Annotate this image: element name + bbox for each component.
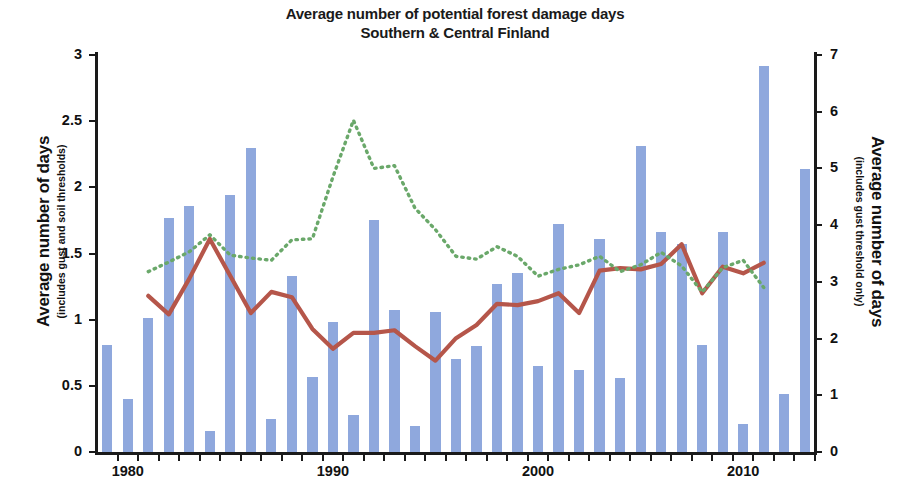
x-axis-line — [95, 452, 817, 455]
x-axis-tick — [486, 454, 488, 461]
y-axis-left-tick-label: 1 — [22, 311, 82, 327]
x-axis-tick — [670, 454, 672, 461]
x-axis-tick — [568, 454, 570, 461]
x-axis-tick — [732, 454, 734, 461]
y-axis-right-tick — [815, 54, 822, 56]
x-axis-tick — [363, 454, 365, 461]
chart-title: Average number of potential forest damag… — [0, 4, 910, 42]
y-axis-left-tick — [89, 120, 96, 122]
x-axis-tick — [793, 454, 795, 461]
y-axis-right-tick-label: 7 — [830, 46, 890, 62]
x-axis-tick — [609, 454, 611, 461]
y-axis-left-tick — [89, 186, 96, 188]
y-axis-right-tick-label: 0 — [830, 443, 890, 459]
y-axis-right-tick — [815, 394, 822, 396]
x-axis-tick — [342, 454, 344, 461]
chart-figure: Average number of potential forest damag… — [0, 0, 910, 482]
x-axis-tick — [137, 454, 139, 461]
y-axis-left-tick — [89, 54, 96, 56]
x-axis-tick — [465, 454, 467, 461]
x-axis-tick — [158, 454, 160, 461]
y-axis-right-tick-label: 3 — [830, 273, 890, 289]
x-axis-tick — [219, 454, 221, 461]
x-axis-tick — [629, 454, 631, 461]
x-axis-tick — [199, 454, 201, 461]
y-axis-right-tick — [815, 451, 822, 453]
y-axis-right-tick-label: 6 — [830, 103, 890, 119]
x-axis-tick — [711, 454, 713, 461]
x-axis-tick — [588, 454, 590, 461]
x-axis-tick — [383, 454, 385, 461]
y-axis-left-tick — [89, 253, 96, 255]
x-axis-tick — [650, 454, 652, 461]
y-axis-right-tick-label: 2 — [830, 330, 890, 346]
x-axis-tick — [404, 454, 406, 461]
x-axis-tick — [322, 454, 324, 461]
y-axis-right-tick — [815, 338, 822, 340]
x-axis-tick — [240, 454, 242, 461]
x-axis-tick — [527, 454, 529, 461]
y-axis-right-tick-label: 4 — [830, 216, 890, 232]
x-axis-tick-label: 1980 — [88, 463, 168, 479]
x-axis-tick — [445, 454, 447, 461]
x-axis-tick — [424, 454, 426, 461]
y-axis-right-tick — [815, 167, 822, 169]
x-axis-tick — [260, 454, 262, 461]
x-axis-tick — [773, 454, 775, 461]
x-axis-tick — [547, 454, 549, 461]
x-axis-tick — [814, 454, 816, 461]
y-axis-left-tick-label: 1.5 — [22, 245, 82, 261]
x-axis-tick — [281, 454, 283, 461]
y-axis-right-tick — [815, 224, 822, 226]
x-axis-tick — [691, 454, 693, 461]
chart-title-line2: Southern & Central Finland — [0, 23, 910, 42]
y-axis-left-tick-label: 2 — [22, 178, 82, 194]
x-axis-tick — [178, 454, 180, 461]
line-series-overlay — [97, 55, 815, 452]
y-axis-left-tick-label: 2.5 — [22, 112, 82, 128]
line-gust-only-running-mean — [148, 120, 763, 292]
y-axis-left-tick-label: 3 — [22, 46, 82, 62]
x-axis-tick — [117, 454, 119, 461]
x-axis-tick — [301, 454, 303, 461]
x-axis-tick-label: 2000 — [498, 463, 578, 479]
x-axis-tick — [752, 454, 754, 461]
x-axis-tick — [506, 454, 508, 461]
y-axis-right-tick — [815, 281, 822, 283]
y-axis-right-tick-label: 5 — [830, 159, 890, 175]
y-axis-left-tick-label: 0 — [22, 443, 82, 459]
y-axis-left-tick — [89, 319, 96, 321]
plot-area: 00.511.522.53 01234567 1980199020002010 — [97, 55, 815, 452]
y-axis-left-tick — [89, 451, 96, 453]
y-axis-left-tick — [89, 385, 96, 387]
x-axis-tick-label: 2010 — [703, 463, 783, 479]
y-axis-right-tick — [815, 111, 822, 113]
chart-title-line1: Average number of potential forest damag… — [286, 5, 625, 22]
y-axis-right-tick-label: 1 — [830, 386, 890, 402]
x-axis-tick-label: 1990 — [293, 463, 373, 479]
y-axis-left-tick-label: 0.5 — [22, 377, 82, 393]
